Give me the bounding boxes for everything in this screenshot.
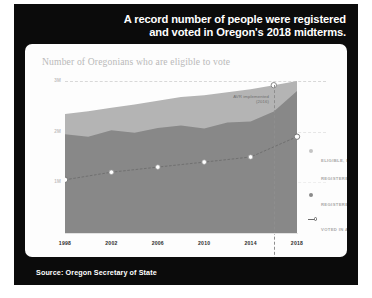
legend-label-eligible: Eligible, but not registered — [321, 158, 347, 181]
legend-swatch-icon-eligible — [309, 149, 313, 153]
slide-card: A record number of people were registere… — [14, 4, 358, 285]
slide-title: A record number of people were registere… — [84, 13, 346, 40]
title-line-1: A record number of people were registere… — [84, 13, 346, 26]
avr-vertical-dashed-line — [274, 85, 275, 257]
chart-legend: Eligible, but not registered Registered … — [308, 148, 347, 243]
legend-swatch-icon-registered — [309, 193, 313, 197]
ytick-2m: 2M — [45, 129, 61, 134]
legend-item-eligible-not-registered[interactable]: Eligible, but not registered — [308, 148, 347, 184]
ytick-3m: 3M — [45, 78, 61, 83]
legend-label-voted: Voted in a midterm — [321, 227, 347, 232]
source-note: Source: Oregon Secretary of State — [36, 268, 157, 277]
avr-annotation: AVR implemented (2016) — [209, 94, 269, 105]
legend-item-voted[interactable]: Voted in a midterm — [308, 217, 347, 235]
avr-annotation-line-2: (2016) — [209, 99, 269, 104]
chart-subtitle: Number of Oregonians who are eligible to… — [42, 56, 230, 67]
legend-item-registered[interactable]: Registered — [308, 192, 347, 210]
xtick-2014: 2014 — [238, 240, 264, 246]
xtick-2010: 2010 — [191, 240, 217, 246]
xtick-2006: 2006 — [145, 240, 171, 246]
x-axis-line — [65, 233, 298, 234]
legend-label-registered: Registered — [321, 202, 347, 207]
chart-panel: Number of Oregonians who are eligible to… — [25, 44, 347, 257]
ytick-1m: 1M — [45, 179, 61, 184]
stacked-area-chart — [65, 81, 326, 233]
xtick-2018: 2018 — [284, 240, 310, 246]
legend-dot-icon-voted — [314, 217, 318, 221]
xtick-1998: 1998 — [52, 240, 78, 246]
xtick-2002: 2002 — [98, 240, 124, 246]
plot-area: AVR implemented (2016) — [65, 81, 297, 233]
title-line-2: and voted in Oregon's 2018 midterms. — [84, 26, 346, 39]
